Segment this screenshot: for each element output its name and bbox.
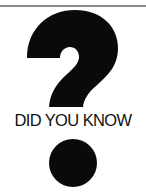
question-mark-dot: [49, 139, 97, 187]
question-mark-hook: [27, 10, 118, 107]
question-mark-icon: [0, 0, 146, 194]
did-you-know-caption: DID YOU KNOW: [0, 110, 146, 130]
